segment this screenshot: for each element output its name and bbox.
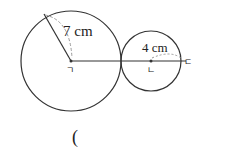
end-point-label: ㄷ xyxy=(184,55,192,68)
small-center-label: ㄴ xyxy=(147,63,155,76)
big-center-label: ㄱ xyxy=(66,63,74,76)
big-radius-label: 7 cm xyxy=(63,23,93,40)
small-radius-label: 4 cm xyxy=(142,40,168,56)
answer-paren: ( xyxy=(72,127,78,148)
circles-diagram xyxy=(0,0,233,158)
